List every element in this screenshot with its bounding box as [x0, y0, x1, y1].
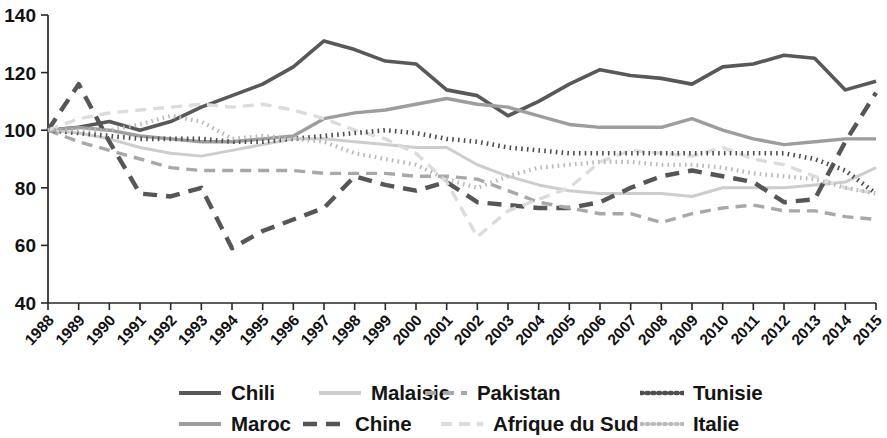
legend-item-chine[interactable]: Chine [302, 409, 411, 438]
legend-swatch-icon [302, 416, 346, 432]
legend-label: Chine [355, 414, 411, 435]
x-tick-label: 2011 [727, 311, 763, 347]
x-tick-label: 1994 [205, 311, 241, 348]
legend-swatch-icon [440, 416, 484, 432]
x-tick-label: 1995 [236, 311, 272, 348]
chart-legend: ChiliMalaisiePakistanTunisieMarocChineAf… [0, 378, 887, 438]
legend-row: ChiliMalaisiePakistanTunisie [0, 378, 887, 408]
legend-swatch-icon [318, 385, 362, 401]
chart-plot-area: 406080100120140 198819891990199119921993… [0, 0, 887, 378]
x-tick-label: 2015 [849, 311, 885, 348]
legend-label: Italie [693, 414, 739, 435]
x-tick-label: 2008 [635, 311, 671, 348]
legend-item-chili[interactable]: Chili [178, 378, 275, 408]
x-tick-label: 1998 [328, 311, 364, 348]
x-axis-ticks [48, 303, 876, 310]
y-axis-tick-labels: 406080100120140 [4, 5, 36, 314]
x-tick-label: 2009 [665, 311, 701, 348]
legend-label: Maroc [231, 414, 291, 435]
legend-swatch-icon [424, 385, 468, 401]
x-tick-label: 1999 [359, 311, 395, 348]
legend-item-italie[interactable]: Italie [640, 409, 739, 438]
legend-swatch-icon [178, 385, 222, 401]
x-tick-label: 2000 [389, 311, 425, 348]
x-tick-label: 2012 [757, 311, 793, 348]
y-axis-ticks [41, 15, 48, 303]
series-line-afrique-du-sud [48, 104, 876, 236]
legend-swatch-icon [178, 416, 222, 432]
x-tick-label: 1996 [267, 311, 303, 348]
x-tick-label: 2006 [573, 311, 609, 348]
x-tick-label: 2004 [512, 311, 548, 348]
x-tick-label: 1991 [113, 311, 149, 348]
y-tick-label: 80 [15, 178, 36, 199]
y-tick-label: 40 [15, 293, 36, 314]
x-tick-label: 1993 [175, 311, 211, 348]
x-tick-label: 1988 [21, 311, 57, 348]
x-tick-label: 2005 [543, 311, 579, 348]
legend-item-tunisie[interactable]: Tunisie [640, 378, 763, 408]
x-tick-label: 2001 [420, 311, 456, 348]
legend-label: Tunisie [693, 383, 763, 404]
x-tick-label: 1990 [83, 311, 119, 348]
x-tick-label: 1989 [52, 311, 88, 348]
x-tick-label: 1997 [297, 311, 333, 348]
y-tick-label: 60 [15, 235, 36, 256]
x-tick-label: 2003 [481, 311, 517, 348]
legend-swatch-icon [640, 385, 684, 401]
legend-item-maroc[interactable]: Maroc [178, 409, 291, 438]
y-tick-label: 140 [4, 5, 36, 26]
legend-row: MarocChineAfrique du SudItalie [0, 409, 887, 438]
x-tick-label: 2013 [788, 311, 824, 348]
y-tick-label: 120 [4, 63, 36, 84]
x-tick-label: 2010 [696, 311, 732, 348]
legend-label: Pakistan [477, 383, 561, 404]
y-tick-label: 100 [4, 120, 36, 141]
legend-label: Chili [231, 383, 275, 404]
x-tick-label: 2007 [604, 311, 640, 348]
line-chart: 406080100120140 198819891990199119921993… [0, 0, 887, 438]
x-axis-tick-labels: 1988198919901991199219931994199519961997… [21, 311, 885, 348]
series-line-chili [48, 41, 876, 130]
chart-axes [41, 15, 876, 310]
x-tick-label: 2014 [819, 311, 855, 348]
x-tick-label: 1992 [144, 311, 180, 348]
legend-item-pakistan[interactable]: Pakistan [424, 378, 561, 408]
legend-label: Afrique du Sud [493, 414, 639, 435]
x-tick-label: 2002 [451, 311, 487, 348]
legend-swatch-icon [640, 416, 684, 432]
chart-series-group [48, 41, 876, 248]
legend-item-afrique-du-sud[interactable]: Afrique du Sud [440, 409, 639, 438]
